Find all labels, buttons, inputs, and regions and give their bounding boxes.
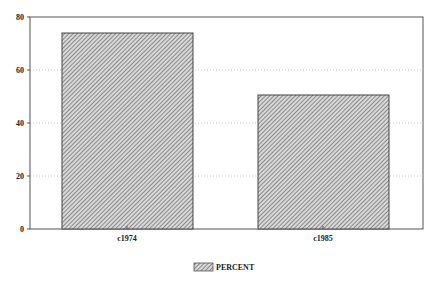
bar-c1974 — [62, 33, 193, 229]
bar-chart: 80 60 40 20 0 c1974 c1985 PERCENT — [0, 0, 437, 287]
x-label-c1974: c1974 — [117, 234, 137, 243]
bar-c1985 — [258, 95, 389, 229]
y-tick-60: 60 — [16, 66, 24, 75]
legend: PERCENT — [194, 263, 255, 272]
y-tick-20: 20 — [16, 172, 24, 181]
legend-label: PERCENT — [216, 263, 255, 272]
y-axis: 80 60 40 20 0 — [16, 13, 30, 234]
y-tick-0: 0 — [20, 225, 24, 234]
x-label-c1985: c1985 — [313, 234, 333, 243]
y-tick-40: 40 — [16, 119, 24, 128]
legend-swatch — [194, 263, 213, 271]
y-tick-80: 80 — [16, 13, 24, 22]
